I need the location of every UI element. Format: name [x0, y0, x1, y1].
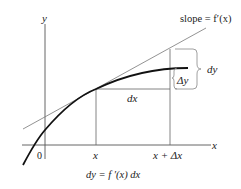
dx-label: dx [127, 92, 138, 104]
x-tick-label: x [92, 149, 98, 161]
x-delta-tick-label: x + Δx [152, 149, 182, 161]
differential-diagram: y x 0 x x + Δx slope = f′(x) dx dy Δy dy… [0, 0, 241, 189]
origin-label: 0 [37, 150, 42, 161]
delta-y-label: Δy [176, 74, 188, 86]
formula-label: dy = f ′(x) dx [86, 169, 141, 181]
y-axis-label: y [41, 12, 47, 24]
slope-label: slope = f′(x) [180, 13, 232, 25]
dy-label: dy [207, 63, 218, 75]
x-axis-label: x [211, 139, 217, 151]
